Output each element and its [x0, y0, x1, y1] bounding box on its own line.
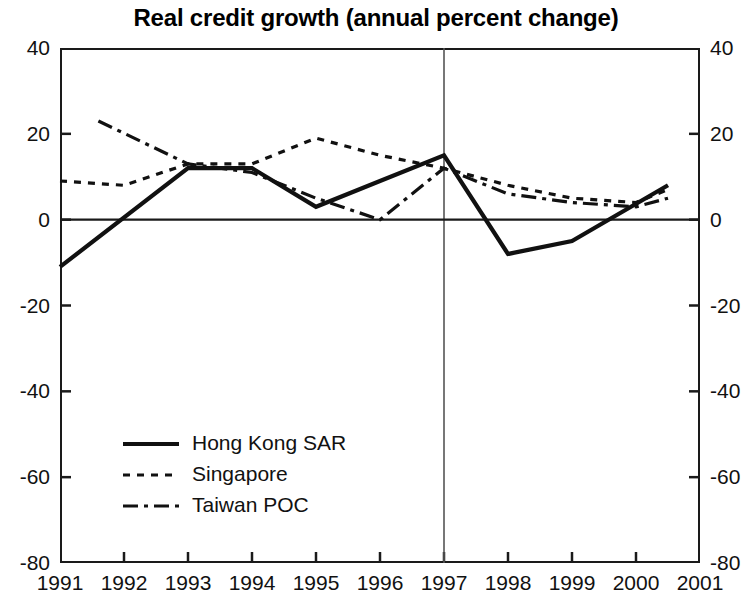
series-line-singapore [60, 138, 668, 202]
x-tick-label: 1993 [153, 572, 223, 593]
series-line-hong-kong-sar [60, 155, 668, 267]
x-tick-label: 1991 [25, 572, 95, 593]
y-tick-label-right: -80 [710, 552, 752, 573]
y-tick-label-left: -20 [2, 295, 50, 316]
x-tick-label: 1994 [217, 572, 287, 593]
series-layer [0, 0, 752, 614]
legend-label: Taiwan POC [192, 493, 309, 517]
legend-item: Singapore [122, 458, 346, 489]
x-tick-label: 1995 [281, 572, 351, 593]
legend-swatch-dotted [122, 467, 180, 481]
chart-container: Real credit growth (annual percent chang… [0, 0, 752, 614]
x-tick-label: 2000 [601, 572, 671, 593]
chart-legend: Hong Kong SARSingaporeTaiwan POC [122, 427, 346, 520]
x-tick-label: 2001 [665, 572, 735, 593]
y-tick-label-left: 0 [2, 209, 50, 230]
y-tick-label-right: 0 [710, 209, 752, 230]
legend-swatch-solid [122, 436, 180, 450]
y-tick-label-right: -40 [710, 380, 752, 401]
x-tick-label: 1999 [537, 572, 607, 593]
y-tick-label-right: 20 [710, 123, 752, 144]
legend-item: Hong Kong SAR [122, 427, 346, 458]
x-tick-label: 1998 [473, 572, 543, 593]
legend-label: Singapore [192, 462, 288, 486]
legend-swatch-dash-dot [122, 498, 180, 512]
y-tick-label-left: 20 [2, 123, 50, 144]
y-tick-label-right: -60 [710, 466, 752, 487]
y-tick-label-left: -40 [2, 380, 50, 401]
x-tick-label: 1992 [89, 572, 159, 593]
x-tick-label: 1997 [409, 572, 479, 593]
legend-label: Hong Kong SAR [192, 431, 346, 455]
y-tick-label-left: 40 [2, 37, 50, 58]
y-tick-label-left: -80 [2, 552, 50, 573]
legend-item: Taiwan POC [122, 489, 346, 520]
y-tick-label-left: -60 [2, 466, 50, 487]
x-tick-label: 1996 [345, 572, 415, 593]
y-tick-label-right: -20 [710, 295, 752, 316]
y-tick-label-right: 40 [710, 37, 752, 58]
